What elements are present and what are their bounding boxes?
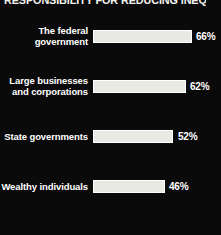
bar-track <box>93 180 165 193</box>
bar-category-label-line1: Wealthy individuals <box>1 181 88 192</box>
bar-category-label-line1: State governments <box>4 131 88 142</box>
bar-category-label: Large businesses and corporations <box>0 75 88 97</box>
bar-track <box>93 80 186 93</box>
bar-value-label: 62% <box>190 80 209 93</box>
bar-chart: RESPONSIBILITY FOR REDUCING INEQUALITY T… <box>0 0 221 235</box>
bar-fill <box>93 130 173 143</box>
bar-row: State governments 52% <box>0 122 221 172</box>
bar-category-label-line2: government <box>35 36 88 47</box>
bar-row: The federal government 66% <box>0 22 221 72</box>
bar-track <box>93 130 173 143</box>
bar-value-label: 46% <box>169 180 188 193</box>
bar-category-label: The federal government <box>0 25 88 47</box>
bar-row: Large businesses and corporations 62% <box>0 72 221 122</box>
bar-category-label: Wealthy individuals <box>0 181 88 192</box>
bar-value-label: 66% <box>196 30 215 43</box>
bar-category-label: State governments <box>0 131 88 142</box>
bar-fill <box>93 180 165 193</box>
bars-area: The federal government 66% Large busines… <box>0 14 221 235</box>
bar-fill <box>93 80 186 93</box>
bar-fill <box>93 30 192 43</box>
bar-track <box>93 30 192 43</box>
chart-title: RESPONSIBILITY FOR REDUCING INEQUALITY <box>4 0 206 7</box>
bar-category-label-line2: and corporations <box>12 86 88 97</box>
bar-category-label-line1: The federal <box>38 25 88 36</box>
bar-row: Wealthy individuals 46% <box>0 172 221 222</box>
bar-category-label-line1: Large businesses <box>9 75 88 86</box>
bar-value-label: 52% <box>178 130 197 143</box>
